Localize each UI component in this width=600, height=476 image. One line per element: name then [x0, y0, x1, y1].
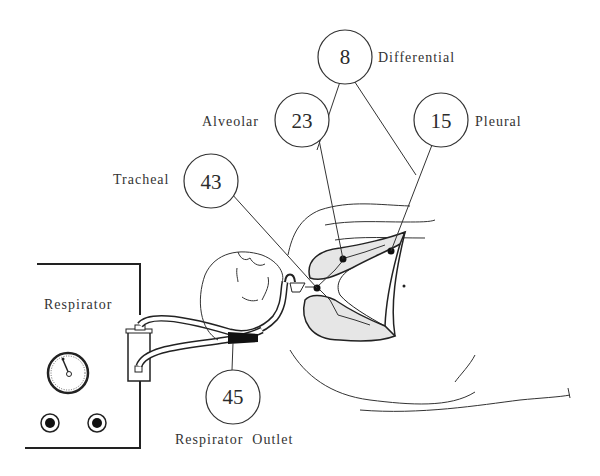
pleural-label: Pleural: [475, 114, 522, 129]
respirator-outlet-label: Respirator Outlet: [175, 432, 293, 447]
tracheal-value: 43: [201, 170, 222, 194]
respirator-outlet-value: 45: [223, 385, 244, 409]
bubble-differential: 8 Differential: [318, 30, 455, 84]
bubble-tracheal: 43 Tracheal: [113, 154, 238, 208]
tracheal-label: Tracheal: [113, 172, 169, 187]
respirator-label: Respirator: [44, 297, 112, 312]
differential-label: Differential: [378, 50, 455, 65]
bubble-respirator-outlet: 45 Respirator Outlet: [175, 370, 293, 447]
breathing-tubes: [139, 275, 305, 367]
pleural-value: 15: [431, 109, 452, 133]
bubble-alveolar: 23 Alveolar: [202, 93, 329, 147]
respirator-device: [25, 264, 152, 448]
ventilation-pressure-diagram: 8 Differential 23 Alveolar 15 Pleural 43…: [0, 0, 600, 476]
patient-figure: [200, 204, 570, 411]
differential-value: 8: [340, 45, 351, 69]
lungs: [304, 232, 405, 341]
alveolar-value: 23: [292, 109, 313, 133]
alveolar-label: Alveolar: [202, 114, 259, 129]
bubble-pleural: 15 Pleural: [414, 93, 522, 147]
